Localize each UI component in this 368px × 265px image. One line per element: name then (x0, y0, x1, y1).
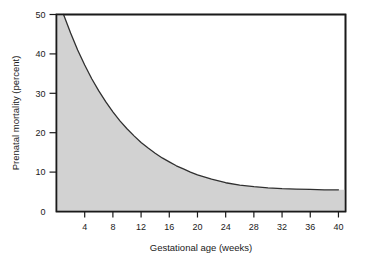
x-tick-label: 20 (192, 222, 202, 232)
x-tick-label: 4 (82, 222, 87, 232)
x-axis-title: Gestational age (weeks) (150, 242, 252, 253)
prenatal-mortality-area-chart: 481216202428323640 01020304050 Gestation… (0, 0, 368, 265)
x-tick-label: 12 (136, 222, 146, 232)
y-axis-title: Prenatal mortality (percent) (10, 56, 21, 171)
y-tick-label: 30 (35, 89, 45, 99)
chart-figure: 481216202428323640 01020304050 Gestation… (0, 0, 368, 265)
x-tick-label: 16 (164, 222, 174, 232)
x-tick-label: 24 (221, 222, 231, 232)
y-tick-label: 40 (35, 49, 45, 59)
x-tick-label: 36 (305, 222, 315, 232)
y-tick-label: 0 (40, 207, 45, 217)
x-tick-label: 32 (277, 222, 287, 232)
x-tick-label: 8 (110, 222, 115, 232)
y-tick-label: 20 (35, 128, 45, 138)
y-tick-label: 50 (35, 10, 45, 20)
x-tick-label: 28 (249, 222, 259, 232)
y-tick-label: 10 (35, 167, 45, 177)
x-tick-label: 40 (333, 222, 343, 232)
